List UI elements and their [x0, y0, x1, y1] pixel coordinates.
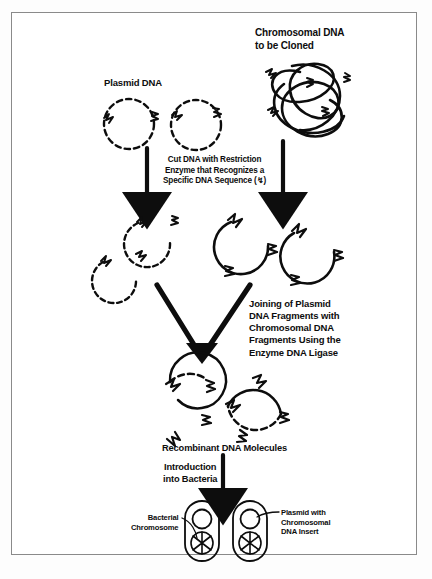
dna-cloning-diagram: [0, 0, 432, 579]
ligase-arrow-right: [208, 285, 250, 348]
plasmid-circle-left: [104, 99, 154, 149]
bacterium-right-chromosome: [239, 532, 261, 554]
plasmid-fragment-2: [92, 262, 136, 303]
ligase-arrow-left: [157, 285, 196, 348]
plasmid-fragment-1: [124, 223, 170, 267]
bacterium-right-plasmid: [241, 510, 260, 529]
label-recombinant-molecules: Recombinant DNA Molecules: [162, 443, 287, 455]
recombinant-right-junction-d: [237, 430, 247, 442]
chromosomal-dna-tangle: [272, 64, 344, 137]
label-introduction-into-bacteria: Introduction into Bacteria: [163, 462, 217, 486]
bacterium-left-plasmid: [193, 510, 212, 529]
recombinant-left-junction-c: [202, 415, 211, 425]
label-bacterial-chromosome: Bacterial Chromosome: [131, 513, 178, 532]
chromosomal-fragment-1: [214, 222, 268, 274]
chromosomal-fragment-2: [280, 233, 334, 283]
plasmid-fragment-1-sticky-b: [171, 216, 178, 225]
leader-line-plasmid-insert: [257, 512, 279, 517]
chromosomal-restriction-site-d: [322, 107, 329, 116]
chromosomal-restriction-site-e: [344, 73, 350, 82]
bacterium-left-chromosome: [191, 532, 213, 554]
chromosomal-fragment-1-sticky-b: [268, 244, 277, 255]
recombinant-left-junction-b: [206, 380, 215, 392]
recombinant-molecule-left-dashed: [170, 374, 206, 382]
figure-root: Plasmid DNA Chromosomal DNA to be Cloned…: [0, 0, 432, 579]
label-plasmid-with-insert: Plasmid with Chromosomal DNA Insert: [281, 508, 330, 537]
label-joining-step: Joining of Plasmid DNA Fragments with Ch…: [249, 298, 341, 359]
recombinant-left-junction-a: [166, 379, 180, 391]
recombinant-molecule-left-solid: [170, 352, 226, 408]
label-plasmid-dna: Plasmid DNA: [104, 77, 162, 89]
label-chromosomal-dna: Chromosomal DNA to be Cloned: [255, 27, 344, 53]
label-cut-step: Cut DNA with Restriction Enzyme that Rec…: [163, 155, 266, 187]
chromosomal-fragment-1-sticky-a: [228, 214, 242, 227]
recombinant-right-junction-b: [253, 375, 266, 388]
chromosomal-fragment-2-sticky-a: [292, 224, 306, 237]
plasmid-fragment-2-sticky-b: [136, 251, 146, 261]
